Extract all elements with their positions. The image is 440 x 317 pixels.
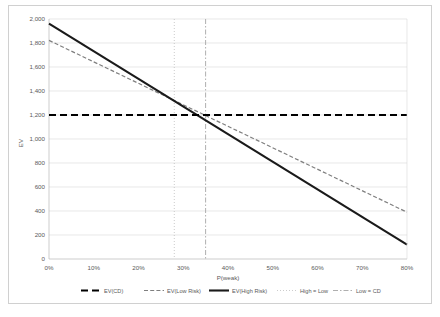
legend-label: High = Low	[300, 288, 329, 294]
x-tick-label: 10%	[88, 264, 101, 271]
legend-item-ev-high-risk[interactable]: EV(High Risk)	[209, 288, 267, 294]
x-tick-label: 80%	[401, 264, 414, 271]
legend-label: Low = CD	[356, 288, 381, 294]
gridlines-horizontal	[49, 19, 407, 235]
y-axis-tick-labels: 2,000 1,800 1,600 1,400 1,200 1,000 800 …	[30, 15, 46, 262]
x-tick-label: 40%	[222, 264, 235, 271]
y-tick-label: 1,600	[30, 63, 46, 70]
x-tick-label: 60%	[311, 264, 324, 271]
y-tick-label: 800	[35, 159, 46, 166]
y-tick-label: 600	[35, 183, 46, 190]
y-tick-label: 1,800	[30, 39, 46, 46]
y-tick-label: 1,200	[30, 111, 46, 118]
x-tick-label: 70%	[356, 264, 369, 271]
line-chart: 2,000 1,800 1,600 1,400 1,200 1,000 800 …	[9, 6, 433, 305]
series-line-ev-low-risk	[49, 40, 407, 212]
series-line-ev-high-risk	[49, 24, 407, 245]
chart-legend: EV(CD) EV(Low Risk) EV(High Risk) High =…	[81, 288, 381, 294]
legend-item-low-equals-cd[interactable]: Low = CD	[333, 288, 381, 294]
x-tick-label: 20%	[132, 264, 145, 271]
chart-plot-container: 2,000 1,800 1,600 1,400 1,200 1,000 800 …	[9, 6, 433, 305]
legend-item-ev-cd[interactable]: EV(CD)	[81, 288, 123, 294]
legend-label: EV(Low Risk)	[167, 288, 201, 294]
x-tick-label: 0%	[45, 264, 54, 271]
legend-label: EV(High Risk)	[232, 288, 267, 294]
legend-label: EV(CD)	[104, 288, 123, 294]
x-axis-tick-labels: 0% 10% 20% 30% 40% 50% 60% 70% 80%	[45, 264, 414, 271]
y-axis-title: EV	[17, 138, 24, 147]
y-tick-label: 1,000	[30, 135, 46, 142]
legend-item-ev-low-risk[interactable]: EV(Low Risk)	[144, 288, 201, 294]
y-tick-label: 2,000	[30, 15, 46, 22]
chart-frame: 2,000 1,800 1,600 1,400 1,200 1,000 800 …	[8, 5, 432, 304]
y-tick-label: 0	[42, 255, 46, 262]
x-tick-label: 30%	[177, 264, 190, 271]
y-tick-label: 400	[35, 207, 46, 214]
y-tick-label: 200	[35, 231, 46, 238]
x-axis-title: P(weak)	[217, 274, 240, 281]
legend-item-high-equals-low[interactable]: High = Low	[277, 288, 329, 294]
x-tick-label: 50%	[267, 264, 280, 271]
y-tick-label: 1,400	[30, 87, 46, 94]
